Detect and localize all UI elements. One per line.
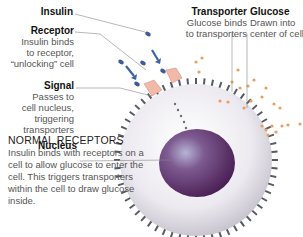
label-title: Transporter: [167, 6, 247, 17]
label-title: Signal: [0, 80, 74, 91]
label-text: Passes to: [32, 91, 74, 102]
label-signal: Signal Passes to cell nucleus, triggerin…: [0, 80, 74, 135]
label-text: triggering: [34, 113, 74, 124]
label-title: Glucose: [250, 6, 303, 17]
label-transporter: Transporter Glucose binds to transporter…: [167, 6, 247, 39]
label-insulin: Insulin: [20, 6, 73, 17]
label-title: Receptor: [0, 25, 74, 36]
caption-text: Insulin binds with receptors on a cell t…: [8, 147, 158, 207]
nucleus: [159, 129, 235, 197]
label-text: to transporters: [186, 28, 247, 39]
label-text: “unlocking” cell: [11, 58, 74, 69]
caption-title: NORMAL RECEPTORS: [8, 134, 124, 146]
label-text: Insulin binds: [21, 36, 74, 47]
label-text: center of cell: [250, 28, 303, 39]
label-text: Glucose binds: [187, 17, 247, 28]
insulin-molecules: [117, 31, 166, 87]
label-text: to receptor,: [26, 47, 74, 58]
label-receptor: Receptor Insulin binds to receptor, “unl…: [0, 25, 74, 69]
label-glucose: Glucose Drawn into center of cell: [250, 6, 303, 39]
label-text: Drawn into: [250, 17, 295, 28]
label-title: Insulin: [20, 6, 73, 17]
label-text: cell nucleus,: [22, 102, 74, 113]
